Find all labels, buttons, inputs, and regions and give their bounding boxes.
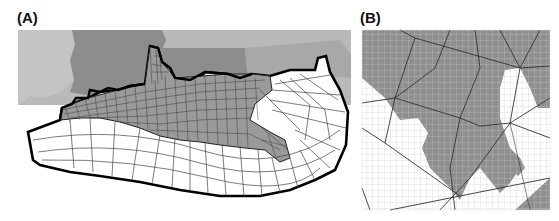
panel-label-b: (B) bbox=[360, 9, 381, 26]
panel-a-mesh-map bbox=[0, 0, 359, 221]
panel-b-detail-grid bbox=[360, 28, 553, 212]
